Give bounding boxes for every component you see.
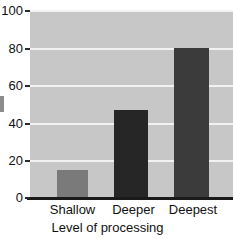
x-axis-title: Level of processing xyxy=(0,220,215,235)
y-tick-label-60: 60 xyxy=(0,79,23,92)
y-tick-60 xyxy=(25,85,30,87)
y-tick-label-20: 20 xyxy=(0,154,23,167)
y-tick-label-80: 80 xyxy=(0,42,23,55)
y-axis-title-fragment xyxy=(0,96,4,112)
y-tick-40 xyxy=(25,123,30,125)
gridline-100 xyxy=(30,10,233,12)
y-tick-20 xyxy=(25,160,30,162)
y-tick-label-0: 0 xyxy=(0,191,23,204)
x-tick-label-deepest: Deepest xyxy=(161,202,225,217)
x-tick-label-deeper: Deeper xyxy=(103,202,164,217)
y-tick-label-100: 100 xyxy=(0,4,23,17)
bar-shallow xyxy=(57,170,88,198)
y-tick-100 xyxy=(25,10,30,12)
bar-deeper xyxy=(114,110,148,198)
y-tick-80 xyxy=(25,48,30,50)
x-axis-line xyxy=(27,197,233,200)
bar-chart-figure: 100 80 60 40 20 0 Shallow Deeper Deepest… xyxy=(0,0,233,239)
y-tick-0 xyxy=(25,197,30,199)
y-tick-label-40: 40 xyxy=(0,117,23,130)
bar-deepest xyxy=(174,48,209,198)
x-tick-label-shallow: Shallow xyxy=(42,202,103,217)
plot-area xyxy=(30,10,233,198)
